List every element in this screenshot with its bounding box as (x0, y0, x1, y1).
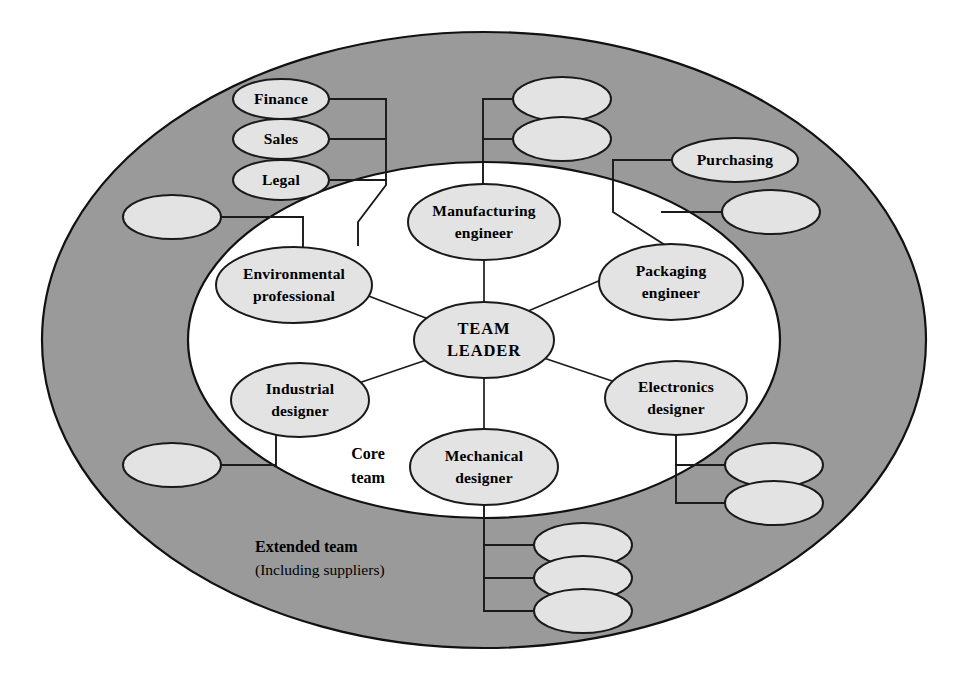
core-team-label-line2: team (351, 469, 385, 486)
node-team-leader-label-line2: LEADER (447, 341, 521, 360)
node-sales-label: Sales (264, 130, 299, 147)
node-packaging-engineer-label-line1: Packaging (636, 262, 707, 279)
node-legal[interactable]: Legal (233, 160, 329, 200)
node-environmental-professional[interactable]: Environmental professional (216, 247, 372, 323)
node-mechanical-designer-label-line1: Mechanical (445, 447, 524, 464)
node-manufacturing-engineer[interactable]: Manufacturing engineer (408, 184, 560, 260)
node-team-leader-label-line1: TEAM (457, 319, 510, 338)
node-industrial-designer-label-line1: Industrial (266, 380, 335, 397)
node-blank-right-3-shape[interactable] (725, 481, 823, 525)
node-electronics-designer-label-line2: designer (647, 400, 705, 417)
node-blank-top-1-shape[interactable] (513, 77, 611, 121)
node-blank-top-2-shape[interactable] (513, 117, 611, 161)
node-blank-bottom-3-shape[interactable] (534, 589, 632, 633)
diagram-root: Finance Sales Legal Purchasing (0, 0, 959, 686)
node-blank-left-1-shape[interactable] (123, 195, 221, 239)
node-blank-right-3[interactable] (725, 481, 823, 525)
node-blank-top-1[interactable] (513, 77, 611, 121)
node-packaging-engineer[interactable]: Packaging engineer (599, 244, 743, 320)
node-purchasing-label: Purchasing (697, 151, 774, 168)
core-team-label-line1: Core (351, 445, 384, 462)
node-mechanical-designer[interactable]: Mechanical designer (410, 429, 558, 505)
node-finance-label: Finance (254, 90, 308, 107)
node-finance[interactable]: Finance (233, 79, 329, 119)
node-legal-label: Legal (262, 171, 301, 188)
extended-team-label-line2: (Including suppliers) (255, 561, 385, 579)
node-manufacturing-engineer-label-line2: engineer (455, 224, 513, 241)
node-industrial-designer-shape[interactable] (231, 363, 369, 437)
node-blank-left-1[interactable] (123, 195, 221, 239)
node-electronics-designer-label-line1: Electronics (638, 378, 714, 395)
extended-team-label-line1: Extended team (255, 538, 358, 555)
node-blank-right-1-shape[interactable] (722, 190, 820, 234)
node-environmental-professional-shape[interactable] (216, 247, 372, 323)
node-mechanical-designer-shape[interactable] (410, 429, 558, 505)
node-purchasing[interactable]: Purchasing (672, 138, 798, 182)
node-electronics-designer-shape[interactable] (605, 361, 747, 435)
node-blank-bottom-3[interactable] (534, 589, 632, 633)
node-environmental-professional-label-line1: Environmental (243, 265, 346, 282)
node-packaging-engineer-label-line2: engineer (642, 284, 700, 301)
node-team-leader[interactable]: TEAM LEADER (414, 302, 554, 378)
node-electronics-designer[interactable]: Electronics designer (605, 361, 747, 435)
node-blank-left-2[interactable] (123, 443, 221, 487)
node-packaging-engineer-shape[interactable] (599, 244, 743, 320)
node-manufacturing-engineer-shape[interactable] (408, 184, 560, 260)
team-structure-diagram: Finance Sales Legal Purchasing (0, 0, 959, 686)
node-manufacturing-engineer-label-line1: Manufacturing (432, 202, 535, 219)
node-blank-top-2[interactable] (513, 117, 611, 161)
node-blank-left-2-shape[interactable] (123, 443, 221, 487)
node-industrial-designer-label-line2: designer (271, 402, 329, 419)
node-sales[interactable]: Sales (233, 119, 329, 159)
node-industrial-designer[interactable]: Industrial designer (231, 363, 369, 437)
node-mechanical-designer-label-line2: designer (455, 469, 513, 486)
node-blank-right-1[interactable] (722, 190, 820, 234)
node-environmental-professional-label-line2: professional (253, 287, 336, 304)
